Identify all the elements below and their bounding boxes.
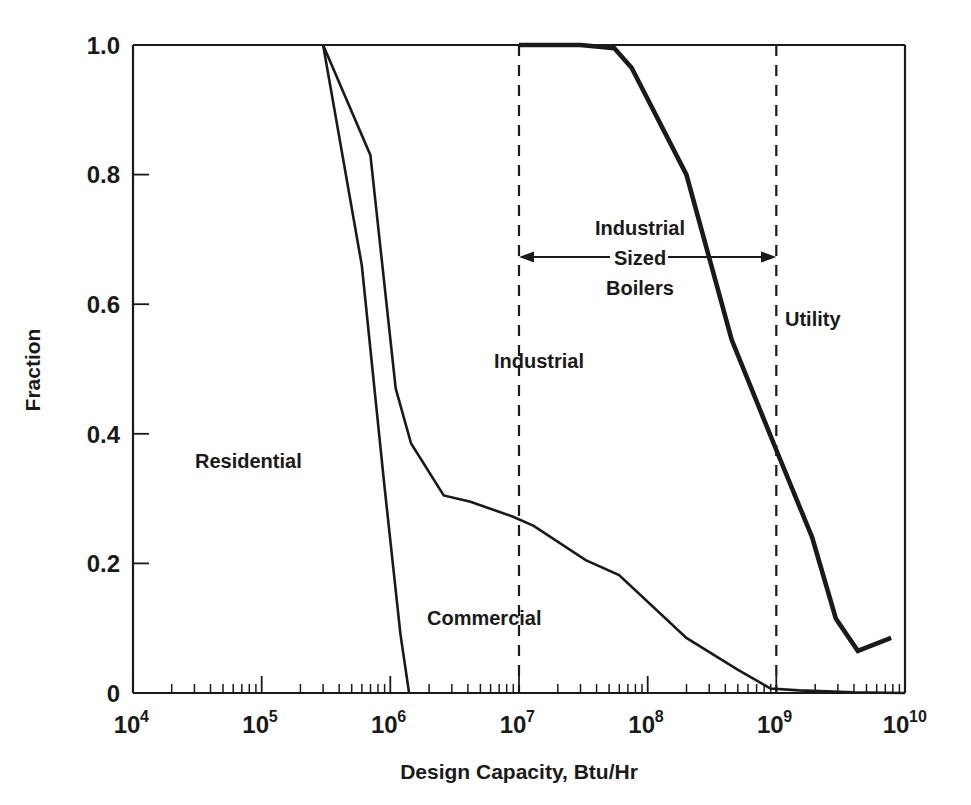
x-axis-minor-ticks [172, 684, 900, 693]
x-tick-label-1e5: 10 5 [242, 708, 277, 738]
annotation-sized-boilers-line1: Industrial [595, 217, 685, 239]
annotation-utility: Utility [785, 308, 841, 330]
x-tick-exponent: 10 [909, 708, 927, 725]
y-tick-label-08: 0.8 [87, 161, 120, 188]
x-tick-exponent: 4 [140, 708, 149, 725]
x-tick-exponent: 9 [783, 708, 792, 725]
y-tick-label-04: 0.4 [87, 421, 121, 448]
series-utility [519, 45, 891, 651]
x-tick-mantissa: 10 [883, 711, 910, 738]
x-tick-exponent: 5 [269, 708, 278, 725]
x-tick-mantissa: 10 [114, 711, 141, 738]
x-tick-mantissa: 10 [500, 711, 527, 738]
annotation-sized-boilers-line3: Boilers [606, 277, 674, 299]
y-tick-label-0: 0 [107, 680, 120, 707]
span-arrow-left-head [519, 252, 534, 263]
chart-svg: 0 0.2 0.4 0.6 0.8 1.0 [0, 0, 971, 805]
x-tick-mantissa: 10 [757, 711, 784, 738]
x-tick-label-1e7: 10 7 [500, 708, 535, 738]
x-tick-mantissa: 10 [242, 711, 269, 738]
x-tick-label-1e4: 10 4 [114, 708, 149, 738]
x-tick-label-1e10: 10 10 [883, 708, 927, 738]
x-tick-label-1e8: 10 8 [628, 708, 663, 738]
series-commercial [323, 45, 905, 693]
x-tick-exponent: 6 [397, 708, 406, 725]
figure-container: 0 0.2 0.4 0.6 0.8 1.0 [0, 0, 971, 805]
span-arrow-right-head [761, 252, 776, 263]
x-tick-label-1e9: 10 9 [757, 708, 792, 738]
annotation-industrial: Industrial [494, 350, 584, 372]
y-axis-tick-labels: 0 0.2 0.4 0.6 0.8 1.0 [87, 32, 121, 707]
x-tick-label-1e6: 10 6 [371, 708, 406, 738]
x-tick-exponent: 8 [655, 708, 664, 725]
x-tick-exponent: 7 [526, 708, 535, 725]
commercial-curve [323, 45, 905, 693]
x-tick-mantissa: 10 [628, 711, 655, 738]
y-axis-title: Fraction [21, 329, 44, 412]
y-tick-label-10: 1.0 [87, 32, 120, 59]
utility-curve [519, 45, 891, 651]
y-tick-label-06: 0.6 [87, 291, 120, 318]
annotation-sized-boilers-line2: Sized [614, 247, 666, 269]
y-axis-ticks [133, 45, 149, 693]
x-tick-mantissa: 10 [371, 711, 398, 738]
y-tick-label-02: 0.2 [87, 550, 120, 577]
x-axis-title: Design Capacity, Btu/Hr [400, 760, 638, 783]
x-axis-tick-labels: 10 4 10 5 10 6 10 7 10 8 10 9 10 10 [114, 708, 927, 738]
annotation-residential: Residential [195, 450, 302, 472]
annotation-commercial: Commercial [427, 607, 542, 629]
